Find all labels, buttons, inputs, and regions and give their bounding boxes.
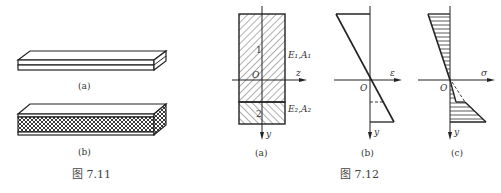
fig711-sublabel-b: (b) [78,147,91,157]
fig712a-z-label: z [295,68,301,78]
fig712a-region1-props: E₁,A₁ [287,50,311,60]
fig712b-y-label: y [373,127,380,137]
fig712a-y-label: y [265,129,272,139]
fig711-caption: 图 7.11 [72,168,111,181]
fig712c-y-label: y [453,127,460,137]
z-axis-arrow-icon [299,78,307,82]
fig711-plate-b [18,104,166,135]
fig712b-epsilon-label: ε [390,68,395,78]
y-axis-arrow-icon [368,132,372,140]
fig712a-sublabel: (a) [255,148,267,158]
sigma-axis-arrow-icon [487,78,495,82]
fig712c-sigma-label: σ [481,68,488,78]
figure-canvas: (a) (b) 图 7.11 1 2 E₁,A₁ E₂,A₂ O z y (a)… [0,0,501,193]
fig712a-region2-number: 2 [256,109,262,119]
fig712-caption: 图 7.12 [340,168,379,181]
fig712b-sublabel: (b) [361,148,374,158]
fig711-plate-a [18,51,166,70]
fig712a-region1-number: 1 [256,45,262,55]
fig712a-region2-props: E₂,A₂ [287,104,312,114]
fig712a-origin: O [252,70,260,80]
y-axis-arrow-icon [260,132,264,140]
fig712b-origin: O [360,83,368,93]
fig712c-origin: O [440,83,448,93]
epsilon-axis-arrow-icon [394,78,402,82]
y-axis-arrow-icon [448,132,452,140]
fig712c-sublabel: (c) [451,148,463,158]
fig711-sublabel-a: (a) [78,81,90,91]
